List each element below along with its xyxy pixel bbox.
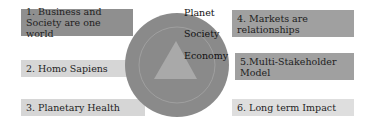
box-multi-stakeholder: 5.Multi-Stakeholder Model xyxy=(235,53,354,80)
box-label: 6. Long term Impact xyxy=(237,102,336,113)
box-markets-relationships: 4. Markets are relationships xyxy=(232,10,354,37)
label-society: Society xyxy=(184,28,219,39)
box-long-term-impact: 6. Long term Impact xyxy=(232,99,354,116)
box-label: 5.Multi-Stakeholder Model xyxy=(240,56,349,78)
label-economy: Economy xyxy=(184,50,228,61)
label-planet: Planet xyxy=(184,7,215,18)
box-label: 4. Markets are relationships xyxy=(237,13,349,35)
